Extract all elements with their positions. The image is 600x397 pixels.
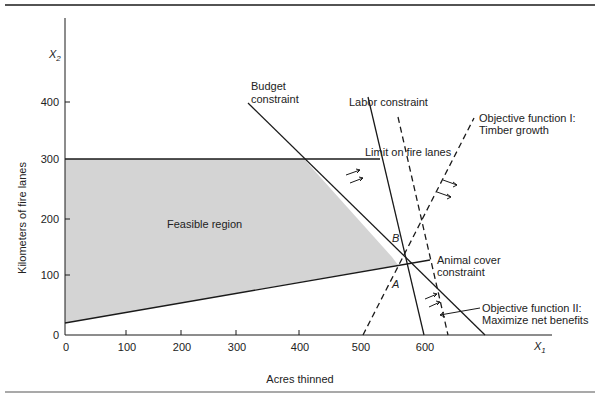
x-tick-600: 600 (416, 341, 434, 353)
objective-2-label-1: Objective function II: (482, 302, 582, 314)
y-tick-200: 200 (41, 213, 59, 225)
chart-svg: 400 300 200 100 0 0 100 200 300 400 500 … (0, 0, 600, 397)
y-tick-400: 400 (41, 96, 59, 108)
point-a-label: A (391, 278, 399, 290)
objective-2-arrows-bottom (425, 293, 440, 307)
x-axis-symbol: X1 (533, 340, 546, 355)
x-axis-title: Acres thinned (266, 373, 333, 385)
x-tick-200: 200 (173, 341, 191, 353)
objective-2-label-2: Maximize net benefits (482, 314, 589, 326)
x-tick-0: 0 (63, 341, 69, 353)
budget-label-2: constraint (251, 93, 299, 105)
y-tick-0: 0 (53, 329, 59, 341)
budget-label-1: Budget (251, 80, 286, 92)
animal-cover-label-2: constraint (437, 266, 485, 278)
objective-2-arrows-top (346, 169, 363, 183)
y-axis-title: Kilometers of fire lanes (16, 162, 28, 274)
objective-1-label-1: Objective function I: (479, 112, 576, 124)
feasible-region-label: Feasible region (167, 218, 242, 230)
feasible-region (65, 159, 398, 323)
x-ticks (126, 330, 299, 335)
x-tick-500: 500 (352, 341, 370, 353)
objective-1-label-2: Timber growth (479, 124, 549, 136)
fire-lanes-label: Limit on fire lanes (365, 146, 452, 158)
y-axis-symbol: X2 (48, 48, 61, 63)
y-tick-100: 100 (41, 269, 59, 281)
animal-cover-label-1: Animal cover (437, 254, 501, 266)
x-tick-400: 400 (291, 341, 309, 353)
point-b-label: B (392, 232, 399, 244)
chart-container: 400 300 200 100 0 0 100 200 300 400 500 … (0, 0, 600, 397)
x-tick-100: 100 (118, 341, 136, 353)
y-tick-300: 300 (41, 153, 59, 165)
x-tick-300: 300 (228, 341, 246, 353)
labor-line (368, 97, 424, 335)
objective-2-leader (440, 308, 480, 315)
labor-label: Labor constraint (349, 96, 428, 108)
objective-1-arrows (437, 180, 457, 199)
